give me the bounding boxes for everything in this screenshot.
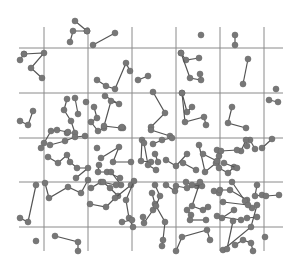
walk-point (72, 134, 78, 140)
walk-point (254, 214, 260, 220)
walk (33, 238, 39, 244)
walk-point (254, 182, 260, 188)
walk-point (232, 42, 238, 48)
walk-point (196, 142, 202, 148)
walk-point (91, 104, 97, 110)
walk-point (244, 143, 250, 149)
walk-point (41, 50, 47, 56)
walk-point (88, 185, 94, 191)
walk-point (220, 199, 226, 205)
walk-point (138, 158, 144, 164)
walk-point (72, 18, 78, 24)
walk-point (162, 110, 168, 116)
walk-point (189, 104, 195, 110)
walk-point (131, 178, 137, 184)
walk-point (72, 95, 78, 101)
walk-point (148, 127, 154, 133)
walk-point (84, 28, 90, 34)
walk-point (17, 215, 23, 221)
walk-point (65, 129, 71, 135)
walk-point (127, 68, 133, 74)
walk-point (254, 202, 260, 208)
walk-point (187, 75, 193, 81)
walk-point (180, 160, 186, 166)
walk-point (101, 123, 107, 129)
walk-point (94, 145, 100, 151)
walk-point (150, 141, 156, 147)
walk-point (163, 157, 169, 163)
walk-point (45, 154, 51, 160)
walk-point (197, 179, 203, 185)
walk-point (48, 128, 54, 134)
walk-point (169, 135, 175, 141)
walk-point (179, 90, 185, 96)
walk-point (238, 217, 244, 223)
walk-point (189, 203, 195, 209)
walk-point (162, 219, 168, 225)
walk-point (42, 180, 48, 186)
walk-point (201, 114, 207, 120)
walk-point (159, 243, 165, 249)
walk-point (276, 192, 282, 198)
walk-point (163, 182, 169, 188)
walk-point (189, 182, 195, 188)
walk-point (116, 144, 122, 150)
walk-point (218, 148, 224, 154)
walk-point (202, 169, 208, 175)
walk (38, 145, 44, 151)
walk-point (234, 147, 240, 153)
walk-point (112, 86, 118, 92)
walk-point (183, 179, 189, 185)
walk-point (229, 104, 235, 110)
walk-point (207, 237, 213, 243)
walk-point (252, 193, 258, 199)
walk-point (110, 159, 116, 165)
walk-point (107, 185, 113, 191)
walk-point (38, 145, 44, 151)
walk-point (28, 65, 34, 71)
walk-point (67, 39, 73, 45)
walk-point (78, 190, 84, 196)
walk-point (231, 207, 237, 213)
walk-point (67, 159, 73, 165)
walk-point (259, 145, 265, 151)
walk-point (243, 125, 249, 131)
walk-point (263, 193, 269, 199)
walk-point (178, 50, 184, 56)
walk-point (145, 73, 151, 79)
walk-point (65, 184, 71, 190)
walk-point (141, 140, 147, 146)
walk-point (88, 119, 94, 125)
walk-point (184, 109, 190, 115)
walk-point (64, 96, 70, 102)
walk-point (187, 217, 193, 223)
walk-point (240, 81, 246, 87)
walk-point (182, 119, 188, 125)
walk-point (204, 227, 210, 233)
walk-point (82, 133, 88, 139)
walk-point (128, 159, 134, 165)
random-walk-grid-diagram (0, 0, 302, 267)
walk-point (108, 98, 114, 104)
walk-point (229, 179, 235, 185)
walk-point (52, 233, 58, 239)
walk-point (75, 248, 81, 254)
walk-point (95, 128, 101, 134)
walk-point (30, 108, 36, 114)
walk-point (205, 204, 211, 210)
walk (273, 86, 279, 92)
walk-point (198, 77, 204, 83)
walk-point (153, 203, 159, 209)
walk-point (17, 118, 23, 124)
walk-point (54, 127, 60, 133)
walk-point (240, 237, 246, 243)
walk-point (96, 162, 102, 168)
walk-point (55, 160, 61, 166)
walk-point (119, 219, 125, 225)
walk-point (100, 179, 106, 185)
walk-point (33, 182, 39, 188)
walk-point (102, 93, 108, 99)
walk-point (234, 165, 240, 171)
walk-point (103, 83, 109, 89)
walk-point (184, 151, 190, 157)
